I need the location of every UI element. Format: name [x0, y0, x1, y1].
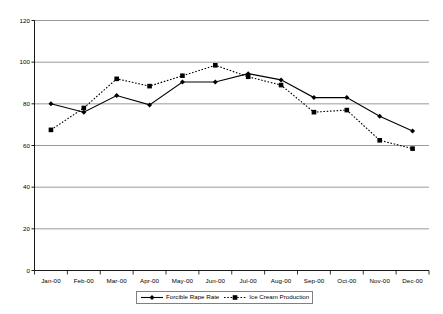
data-point-marker — [213, 79, 218, 84]
data-point-marker — [279, 77, 284, 82]
y-tick-label: 0 — [6, 267, 30, 274]
data-point-marker — [279, 83, 284, 88]
y-tick-label: 80 — [6, 100, 30, 107]
legend-diamond-marker-icon — [140, 294, 164, 301]
data-point-marker — [246, 74, 251, 79]
data-point-marker — [311, 95, 316, 100]
series-1 — [48, 71, 415, 133]
data-point-marker — [48, 101, 53, 106]
legend-entry-2: Ice Cream Production — [223, 294, 309, 301]
data-point-marker — [410, 128, 415, 133]
data-point-marker — [213, 63, 218, 68]
y-tick-label: 100 — [6, 58, 30, 65]
x-axis-ticks — [35, 271, 430, 275]
legend-entry-1: Forcible Rape Rate — [140, 294, 219, 301]
data-point-marker — [147, 84, 152, 89]
line-chart: 020406080100120 Jan-00Feb-00Mar-00Apr-00… — [0, 0, 443, 314]
data-point-marker — [344, 95, 349, 100]
data-point-marker — [345, 108, 350, 113]
data-point-marker — [233, 295, 238, 300]
series-2 — [49, 63, 415, 151]
series-line — [51, 74, 413, 131]
gridlines — [35, 21, 430, 229]
data-point-marker — [82, 106, 87, 111]
data-point-marker — [49, 128, 54, 133]
data-point-marker — [114, 77, 119, 82]
plot-area — [0, 0, 443, 314]
y-tick-label: 60 — [6, 142, 30, 149]
y-tick-label: 120 — [6, 17, 30, 24]
legend-label: Ice Cream Production — [249, 294, 309, 300]
legend-square-marker-icon — [223, 294, 247, 301]
legend-label: Forcible Rape Rate — [166, 294, 219, 300]
data-point-marker — [150, 295, 155, 300]
data-point-marker — [180, 73, 185, 78]
series-layer — [48, 63, 415, 151]
data-point-marker — [81, 110, 86, 115]
data-point-marker — [410, 146, 415, 151]
data-point-marker — [377, 114, 382, 119]
y-tick-label: 40 — [6, 183, 30, 190]
chart-legend: Forcible Rape RateIce Cream Production — [136, 291, 313, 304]
data-point-marker — [114, 93, 119, 98]
data-point-marker — [377, 138, 382, 143]
x-tick-label: Dec-00 — [393, 277, 433, 284]
data-point-marker — [312, 110, 317, 115]
y-tick-label: 20 — [6, 225, 30, 232]
